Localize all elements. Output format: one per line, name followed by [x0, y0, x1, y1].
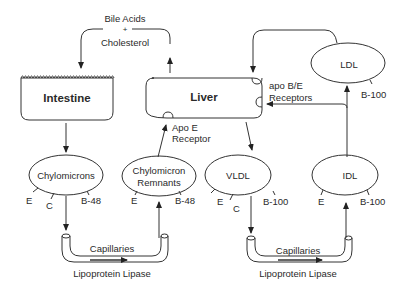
- apo-be-receptor-notch-side: [256, 97, 262, 107]
- chylomicron-remnants-label-2: Remnants: [137, 177, 180, 188]
- vldl-apo-c: C: [233, 203, 240, 214]
- apo-be-receptors-label-2: Receptors: [269, 92, 312, 103]
- chylomicrons-apo-b48: B-48: [81, 195, 101, 206]
- capillaries-label-2: Capillaries: [276, 245, 320, 256]
- intestine-label: Intestine: [43, 93, 90, 104]
- chylomicron-remnants-label-1: Chylomicron: [133, 165, 186, 176]
- apo-e-receptor-label-2: Receptor: [172, 133, 211, 144]
- cholesterol-label: Cholesterol: [101, 37, 149, 48]
- bile-acids-label: Bile Acids: [104, 13, 145, 24]
- apo-be-receptors-label-1: apo B/E: [269, 80, 303, 91]
- chylomicrons-apo-e: E: [26, 195, 32, 206]
- vldl-label: VLDL: [226, 170, 250, 181]
- plus-label: +: [123, 24, 128, 35]
- idl-apo-b100: B-100: [360, 196, 385, 207]
- liver-label: Liver: [190, 92, 218, 103]
- lipoprotein-lipase-label-2: Lipoprotein Lipase: [259, 268, 337, 279]
- apo-e-receptor-notch: [163, 112, 173, 118]
- ldl-apo-b100: B-100: [361, 89, 386, 100]
- ldl-label: LDL: [340, 59, 357, 70]
- diagram-canvas: [0, 0, 403, 293]
- vldl-apo-b100: B-100: [263, 196, 288, 207]
- idl-label: IDL: [343, 170, 358, 181]
- vldl-apo-e: E: [217, 196, 223, 207]
- remnants-apo-e: E: [131, 195, 137, 206]
- capillaries-label-1: Capillaries: [90, 243, 134, 254]
- apo-e-receptor-label-1: Apo E: [172, 122, 198, 133]
- remnants-apo-b48: B-48: [175, 195, 195, 206]
- chylomicrons-apo-c: C: [46, 200, 53, 211]
- lipoprotein-lipase-label-1: Lipoprotein Lipase: [73, 268, 151, 279]
- chylomicrons-label: Chylomicrons: [37, 170, 95, 181]
- chylomicron-remnants-ellipse: [122, 156, 196, 196]
- idl-apo-e: E: [318, 196, 324, 207]
